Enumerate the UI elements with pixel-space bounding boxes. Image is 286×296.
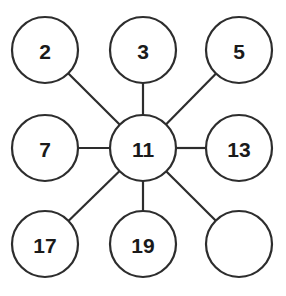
node-bottom-center[interactable]: 19 [110,211,176,277]
node-top-right[interactable]: 5 [206,17,272,83]
spoke-center-to-top-left [68,73,120,125]
node-label-middle-right: 13 [227,138,250,161]
node-top-center[interactable]: 3 [110,17,176,83]
node-middle-right[interactable]: 13 [206,115,272,181]
node-middle-left[interactable]: 7 [12,115,78,181]
node-label-bottom-left: 17 [33,234,56,257]
prime-wheel-diagram: 235711131719 [0,0,286,296]
spoke-center-to-top-right [166,73,217,125]
node-bottom-left[interactable]: 17 [12,211,78,277]
spoke-center-to-bottom-left [68,171,120,222]
node-label-top-center: 3 [137,40,149,63]
diagram-canvas: 235711131719 [0,0,286,296]
node-bottom-right[interactable] [206,211,272,277]
node-label-center: 11 [132,138,155,161]
node-label-middle-left: 7 [39,138,51,161]
node-label-top-left: 2 [39,40,51,63]
node-circle-bottom-right[interactable] [206,211,272,277]
node-top-left[interactable]: 2 [12,17,78,83]
node-label-top-right: 5 [233,40,245,63]
node-center[interactable]: 11 [110,115,176,181]
node-label-bottom-center: 19 [131,234,154,257]
node-layer: 235711131719 [12,17,272,277]
spoke-center-to-bottom-right [166,171,216,221]
